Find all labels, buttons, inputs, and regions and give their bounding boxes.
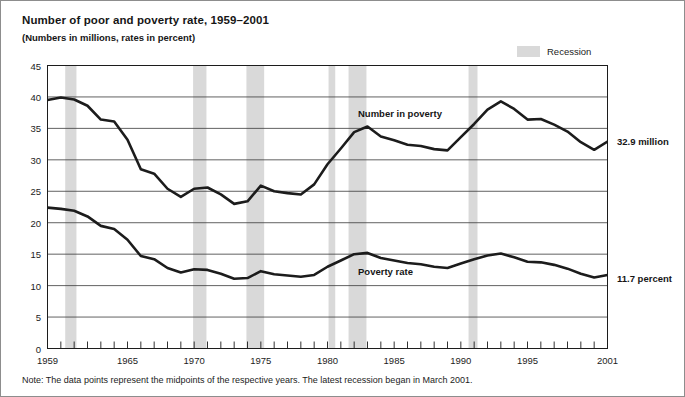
chart-subtitle: (Numbers in millions, rates in percent) <box>22 32 195 43</box>
chart-note: Note: The data points represent the midp… <box>22 375 472 385</box>
series-label-number-in-poverty: Number in poverty <box>358 108 442 119</box>
y-axis-tick-label: 40 <box>19 91 41 102</box>
legend: Recession <box>517 46 591 57</box>
x-axis-tick-label: 1970 <box>184 355 205 366</box>
x-axis-minor-ticks <box>48 342 608 349</box>
y-axis-tick-label: 5 <box>19 312 41 323</box>
recession-swatch-icon <box>517 46 540 57</box>
y-axis-tick-label: 10 <box>19 280 41 291</box>
series-line <box>48 208 608 279</box>
legend-label-recession: Recession <box>547 46 591 57</box>
recession-band <box>329 66 336 349</box>
value-label-poverty-rate: 11.7 percent <box>617 273 672 284</box>
chart-svg <box>47 65 608 349</box>
y-axis-tick-label: 0 <box>19 343 41 354</box>
x-axis-tick-label: 1995 <box>517 355 538 366</box>
x-axis-tick-label: 1980 <box>317 355 338 366</box>
recession-band <box>246 66 264 349</box>
gridlines <box>48 97 608 317</box>
chart-title: Number of poor and poverty rate, 1959–20… <box>22 14 269 26</box>
plot-frame <box>48 66 608 349</box>
y-axis-tick-label: 20 <box>19 217 41 228</box>
recession-band <box>65 66 76 349</box>
series-label-poverty-rate: Poverty rate <box>358 266 413 277</box>
x-axis-tick-label: 1965 <box>117 355 138 366</box>
x-axis-tick-label: 1975 <box>250 355 271 366</box>
y-axis-tick-label: 15 <box>19 249 41 260</box>
y-axis-tick-label: 35 <box>19 123 41 134</box>
value-label-number-in-poverty: 32.9 million <box>617 136 669 147</box>
recession-bands <box>65 66 608 349</box>
x-axis-tick-label: 1990 <box>450 355 471 366</box>
series-line <box>48 98 608 204</box>
plot-area: 051015202530354045 195919651970197519801… <box>47 65 608 349</box>
recession-band <box>193 66 206 349</box>
x-axis-tick-label: 1959 <box>37 355 58 366</box>
y-axis-tick-label: 45 <box>19 60 41 71</box>
x-axis-tick-label: 2001 <box>597 355 618 366</box>
series-lines <box>48 98 608 279</box>
y-axis-tick-label: 30 <box>19 154 41 165</box>
figure-container: Number of poor and poverty rate, 1959–20… <box>0 0 685 397</box>
y-axis-tick-label: 25 <box>19 186 41 197</box>
x-axis-tick-label: 1985 <box>384 355 405 366</box>
recession-band <box>469 66 478 349</box>
